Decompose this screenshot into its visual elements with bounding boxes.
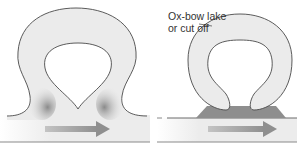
- erosion-shading-right: [96, 88, 124, 120]
- sediment-deposit: [196, 106, 286, 118]
- erosion-shading-left: [28, 88, 56, 120]
- oxbow-diagram: Ox-bow lake or cut off: [0, 0, 297, 146]
- panel-meander: [0, 8, 150, 142]
- oxbow-label-line2: or cut off: [168, 22, 226, 34]
- oxbow-lake-label: Ox-bow lake or cut off: [168, 10, 226, 34]
- diagram-canvas: [0, 0, 297, 146]
- oxbow-label-line1: Ox-bow lake: [168, 10, 226, 22]
